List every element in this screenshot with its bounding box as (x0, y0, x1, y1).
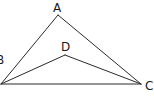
segment-ac (58, 15, 141, 84)
point-label-d: D (61, 40, 70, 54)
point-label-a: A (53, 1, 62, 15)
triangle-diagram: A B C D (0, 0, 154, 97)
segment-ab (1, 15, 58, 84)
point-label-b: B (0, 53, 4, 67)
segment-dc (65, 55, 141, 84)
segment-bd (1, 55, 65, 84)
point-label-c: C (145, 79, 153, 93)
